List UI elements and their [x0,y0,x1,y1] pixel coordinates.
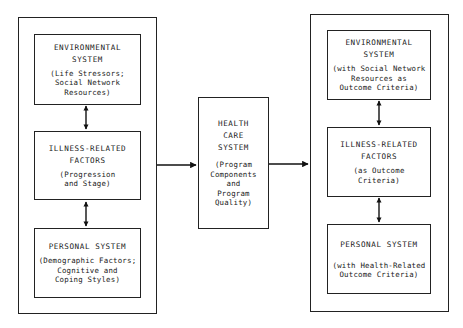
left-illness-related-factors-box: ILLNESS-RELATED FACTORS (Progression and… [34,131,141,200]
box-title: ENVIRONMENTAL SYSTEM [345,37,412,61]
health-care-system-box: HEALTH CARE SYSTEM (Program Components a… [198,97,269,229]
box-title: PERSONAL SYSTEM [49,241,127,253]
left-personal-system-box: PERSONAL SYSTEM (Demographic Factors; Co… [34,228,141,298]
right-illness-related-factors-box: ILLNESS-RELATED FACTORS (as Outcome Crit… [327,127,431,197]
box-subtitle: (as Outcome Criteria) [353,166,404,185]
box-title: ENVIRONMENTAL SYSTEM [54,42,121,66]
box-subtitle: (with Health-Related Outcome Criteria) [333,261,426,280]
box-subtitle: (Program Components and Program Quality) [210,160,257,208]
box-subtitle: (Progression and Stage) [60,170,116,189]
box-title: ILLNESS-RELATED FACTORS [49,143,127,167]
box-title: PERSONAL SYSTEM [340,239,418,251]
box-title: HEALTH CARE SYSTEM [218,118,249,154]
box-title: ILLNESS-RELATED FACTORS [340,139,418,163]
box-subtitle: (with Social Network Resources as Outcom… [333,64,426,93]
right-personal-system-box: PERSONAL SYSTEM (with Health-Related Out… [327,224,431,294]
box-subtitle: (Demographic Factors; Cognitive and Copi… [39,256,137,285]
left-environmental-system-box: ENVIRONMENTAL SYSTEM (Life Stressors; So… [34,34,141,105]
right-environmental-system-box: ENVIRONMENTAL SYSTEM (with Social Networ… [327,30,431,100]
box-subtitle: (Life Stressors; Social Network Resource… [50,69,124,98]
